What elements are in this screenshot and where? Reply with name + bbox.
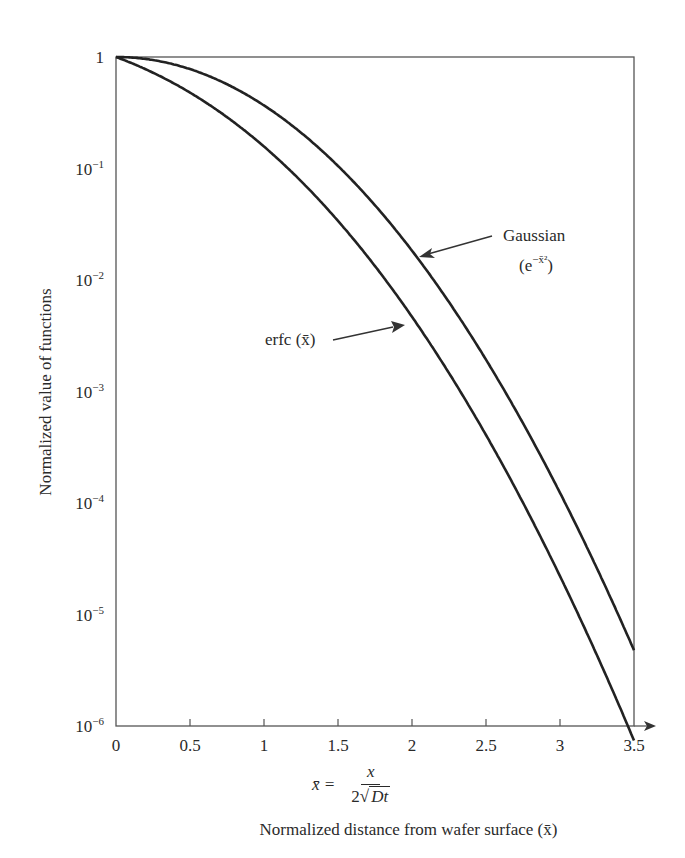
x-tick-label: 2.5	[475, 736, 496, 755]
x-tick-label: 0.5	[179, 736, 200, 755]
x-definition-formula: x̄ = x 2√Dt	[312, 762, 390, 807]
formula-fraction: x 2√Dt	[351, 762, 390, 807]
x-axis-title: Normalized distance from wafer surface (…	[0, 820, 685, 840]
x-tick-label: 0	[112, 736, 121, 755]
gaussian-formula: (e−x̄²)	[519, 253, 553, 275]
x-tick-label: 2	[408, 736, 417, 755]
formula-numerator: x	[361, 762, 381, 785]
plot-frame	[116, 57, 634, 726]
y-tick-label: 10−5	[75, 604, 104, 625]
formula-coef: 2	[351, 787, 360, 806]
erfc-arrowhead-icon	[391, 321, 405, 333]
y-tick-label: 1	[96, 48, 105, 67]
x-tick-label: 1	[260, 736, 269, 755]
y-axis-title: Normalized value of functions	[36, 288, 55, 495]
formula-lhs: x̄ =	[312, 775, 335, 795]
gaussian-label: Gaussian	[503, 226, 566, 245]
x-tick-label: 1.5	[327, 736, 348, 755]
y-tick-label: 10−6	[75, 715, 104, 736]
x-tick-label: 3	[556, 736, 565, 755]
erfc-curve	[116, 57, 634, 740]
x-ticks: 00.511.522.533.5	[112, 719, 645, 755]
chart: 00.511.522.533.5 110−110−210−310−410−510…	[0, 0, 685, 858]
y-tick-label: 10−1	[75, 158, 104, 179]
gaussian-curve	[116, 57, 634, 650]
gaussian-arrow-line	[428, 236, 492, 254]
y-tick-label: 10−3	[75, 381, 104, 402]
formula-sqrt: Dt	[369, 786, 390, 806]
y-ticks: 110−110−210−310−410−510−6	[75, 48, 104, 736]
y-tick-label: 10−4	[75, 492, 104, 513]
erfc-label: erfc (x̄)	[265, 330, 316, 349]
y-tick-label: 10−2	[75, 269, 104, 290]
erfc-arrow-line	[333, 327, 393, 340]
formula-denominator: 2√Dt	[351, 785, 390, 807]
x-axis-title-text: Normalized distance from wafer surface (…	[260, 820, 558, 839]
